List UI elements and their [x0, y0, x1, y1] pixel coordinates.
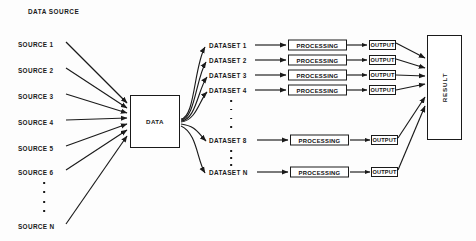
output-label: OUTPUT [370, 87, 394, 93]
processing-box-n: PROCESSING [290, 167, 349, 178]
source-label-1: SOURCE 1 [18, 41, 53, 48]
processing-label: PROCESSING [297, 57, 339, 63]
diagram-canvas: DATA SOURCE SOURCE 1 SOURCE 2 SOURCE 3 S… [0, 0, 476, 241]
data-node: DATA [130, 95, 180, 148]
processing-box-4: PROCESSING [288, 85, 347, 96]
dataset-label-8: DATASET 8 [209, 137, 247, 144]
processing-box-2: PROCESSING [288, 55, 347, 66]
output-box-n: OUTPUT [371, 167, 398, 177]
output-box-4: OUTPUT [369, 85, 396, 95]
output-to-result-arrows [396, 43, 425, 170]
source-label-5: SOURCE 5 [18, 145, 53, 152]
output-label: OUTPUT [370, 42, 394, 48]
diagram-wiring [0, 0, 476, 241]
dataset-label-2: DATASET 2 [209, 57, 247, 64]
data-node-label: DATA [146, 118, 164, 125]
dataset-ellipsis-lower [230, 150, 232, 166]
dataset-label-3: DATASET 3 [209, 72, 247, 79]
output-label: OUTPUT [370, 72, 394, 78]
source-label-2: SOURCE 2 [18, 67, 53, 74]
processing-label: PROCESSING [297, 42, 339, 48]
output-box-8: OUTPUT [371, 135, 398, 145]
source-label-4: SOURCE 4 [18, 119, 53, 126]
source-to-data-arrows [66, 42, 127, 224]
processing-label: PROCESSING [297, 87, 339, 93]
processing-box-8: PROCESSING [290, 135, 349, 146]
source-ellipsis [43, 182, 45, 212]
processing-label: PROCESSING [297, 72, 339, 78]
processing-to-output-arrows [347, 45, 370, 172]
dataset-ellipsis-upper [230, 100, 232, 128]
output-box-1: OUTPUT [369, 40, 396, 50]
processing-label: PROCESSING [299, 169, 341, 175]
result-node: RESULT [427, 35, 462, 140]
processing-box-1: PROCESSING [288, 40, 347, 51]
source-label-3: SOURCE 3 [18, 93, 53, 100]
source-label-n: SOURCE N [18, 223, 55, 230]
diagram-title: DATA SOURCE [28, 8, 79, 15]
output-box-2: OUTPUT [369, 55, 396, 65]
dataset-label-4: DATASET 4 [209, 87, 247, 94]
processing-label: PROCESSING [299, 137, 341, 143]
processing-box-3: PROCESSING [288, 70, 347, 81]
output-box-3: OUTPUT [369, 70, 396, 80]
output-label: OUTPUT [370, 57, 394, 63]
dataset-label-1: DATASET 1 [209, 42, 247, 49]
output-label: OUTPUT [372, 169, 396, 175]
dataset-to-processing-arrows [255, 45, 288, 172]
source-label-6: SOURCE 6 [18, 169, 53, 176]
result-node-label: RESULT [441, 73, 448, 103]
data-to-dataset-arrows [181, 47, 207, 173]
output-label: OUTPUT [372, 137, 396, 143]
dataset-label-n: DATASET N [209, 169, 248, 176]
